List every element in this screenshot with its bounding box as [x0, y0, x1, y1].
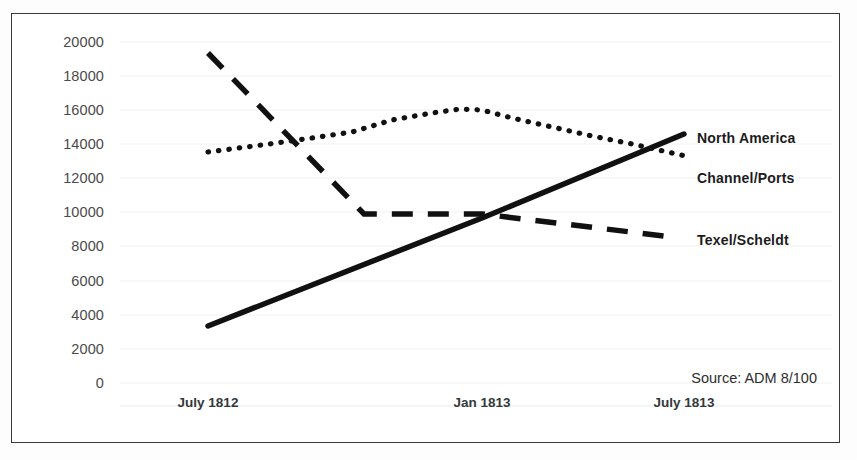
series-label-texel-scheldt: Texel/Scheldt — [697, 232, 789, 248]
y-axis-tick-6000: 6000 — [32, 273, 104, 289]
y-axis-tick-20000: 20000 — [32, 34, 104, 50]
y-axis-tick-10000: 10000 — [32, 204, 104, 220]
chart-figure: 20000 18000 16000 14000 12000 10000 8000… — [0, 0, 857, 460]
gridlines — [120, 42, 832, 406]
series-line-texel-scheldt — [208, 53, 672, 237]
y-axis-tick-8000: 8000 — [32, 238, 104, 254]
x-axis-tick-july-1813: July 1813 — [614, 395, 754, 410]
y-axis-tick-16000: 16000 — [32, 102, 104, 118]
y-axis-tick-12000: 12000 — [32, 170, 104, 186]
series-label-north-america: North America — [697, 130, 796, 146]
source-annotation: Source: ADM 8/100 — [691, 370, 817, 386]
x-axis-tick-jan-1813: Jan 1813 — [412, 395, 552, 410]
y-axis-tick-0: 0 — [32, 375, 104, 391]
y-axis-tick-2000: 2000 — [32, 341, 104, 357]
series-line-north-america — [208, 109, 690, 157]
y-axis-tick-14000: 14000 — [32, 136, 104, 152]
y-axis-tick-4000: 4000 — [32, 307, 104, 323]
y-axis-tick-18000: 18000 — [32, 68, 104, 84]
chart-frame: 20000 18000 16000 14000 12000 10000 8000… — [11, 13, 840, 443]
series-label-channel-ports: Channel/Ports — [697, 170, 795, 186]
x-axis-tick-july-1812: July 1812 — [138, 395, 278, 410]
